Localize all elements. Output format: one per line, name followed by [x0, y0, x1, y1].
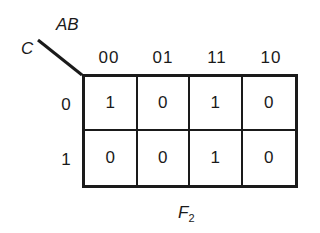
- map-caption: F2: [178, 203, 195, 223]
- karnaugh-map-grid: 1 0 1 0 0 0 1 0: [82, 74, 298, 188]
- caption-function-name: F: [178, 203, 188, 222]
- row-header-1: 1: [58, 150, 74, 170]
- column-header-00: 00: [82, 48, 136, 68]
- cell-c1-ab01: 0: [138, 131, 191, 185]
- column-header-01: 01: [136, 48, 190, 68]
- cell-c0-ab01: 0: [138, 77, 191, 131]
- cell-c0-ab11: 1: [190, 77, 243, 131]
- row-header-0: 0: [58, 95, 74, 115]
- cell-c1-ab00: 0: [85, 131, 138, 185]
- cell-c0-ab10: 0: [243, 77, 296, 131]
- cell-c0-ab00: 1: [85, 77, 138, 131]
- caption-subscript: 2: [188, 212, 194, 224]
- row-variable-label: C: [21, 40, 33, 57]
- cell-c1-ab10: 0: [243, 131, 296, 185]
- column-header-10: 10: [244, 48, 298, 68]
- column-variable-label: AB: [56, 16, 79, 33]
- cell-c1-ab11: 1: [190, 131, 243, 185]
- column-header-11: 11: [190, 48, 244, 68]
